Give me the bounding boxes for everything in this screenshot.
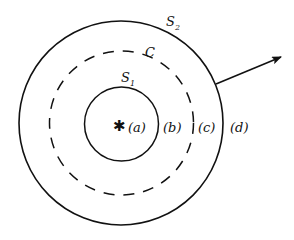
concentric-surfaces-diagram: S2 C S1 ✱ (a) (b) (c) (d) bbox=[0, 0, 294, 240]
region-label-c: (c) bbox=[198, 120, 215, 135]
region-label-a: (a) bbox=[128, 120, 146, 135]
region-label-d: (d) bbox=[230, 120, 248, 135]
label-s1: S1 bbox=[121, 70, 135, 88]
label-c: C bbox=[145, 45, 155, 60]
region-label-b: (b) bbox=[163, 120, 181, 135]
outward-arrow bbox=[216, 57, 281, 84]
label-s2: S2 bbox=[166, 14, 180, 32]
source-point-icon: ✱ bbox=[113, 117, 126, 135]
